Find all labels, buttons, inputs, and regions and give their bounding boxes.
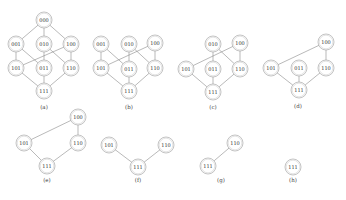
panel-f: 101110111(f) [101,137,174,183]
node-110: 110 [158,137,174,153]
node-label: 001 [11,41,21,47]
node-label: 110 [230,140,240,146]
node-label: 010 [208,41,218,47]
node-label: 100 [321,39,331,45]
panel-label-h: (h) [289,177,297,183]
node-100: 100 [318,34,334,50]
panel-a: 000001010100101011110111(a) [8,12,79,110]
lattice-diagram-svg: 000001010100101011110111(a)0010101001010… [0,0,346,200]
node-110: 110 [147,60,163,76]
node-011: 011 [36,60,52,76]
node-111: 111 [39,158,55,174]
node-label: 100 [150,40,160,46]
node-110: 110 [318,60,334,76]
node-101: 101 [93,60,109,76]
node-111: 111 [200,158,216,174]
node-110: 110 [63,60,79,76]
node-110: 110 [232,61,248,77]
node-010: 010 [36,36,52,52]
panel-b: 001010100101011110111(b) [93,35,163,110]
panel-c: 010100101011110111(c) [178,35,248,110]
node-label: 111 [203,163,213,169]
node-label: 011 [124,66,134,72]
node-label: 011 [208,66,218,72]
node-001: 001 [8,36,24,52]
panel-d: 100101011110111(d) [263,34,334,109]
node-010: 010 [121,36,137,52]
panel-label-f: (f) [135,177,141,183]
node-label: 110 [150,65,160,71]
node-label: 101 [181,66,191,72]
node-label: 111 [208,89,218,95]
node-label: 100 [66,41,76,47]
node-label: 101 [19,140,29,146]
panel-label-d: (d) [294,103,302,109]
node-111: 111 [130,159,146,175]
node-100: 100 [63,36,79,52]
node-label: 110 [321,65,331,71]
node-011: 011 [205,61,221,77]
node-110: 110 [70,135,86,151]
node-111: 111 [205,84,221,100]
node-000: 000 [36,12,52,28]
node-111: 111 [121,83,137,99]
node-label: 110 [66,65,76,71]
panel-e: 100101110111(e) [16,109,86,183]
panel-label-e: (e) [43,177,51,183]
node-label: 101 [11,65,21,71]
node-label: 100 [73,114,83,120]
node-label: 101 [96,65,106,71]
node-label: 111 [133,164,143,170]
node-label: 101 [266,65,276,71]
node-label: 111 [39,88,49,94]
edge-100-101 [24,117,78,143]
node-100: 100 [232,35,248,51]
node-label: 011 [294,65,304,71]
node-100: 100 [70,109,86,125]
panel-label-c: (c) [209,104,216,110]
node-001: 001 [93,36,109,52]
node-111: 111 [36,83,52,99]
node-111: 111 [291,82,307,98]
node-label: 101 [104,142,114,148]
node-100: 100 [147,35,163,51]
node-101: 101 [16,135,32,151]
node-label: 100 [235,40,245,46]
node-label: 011 [39,65,49,71]
node-111: 111 [285,159,301,175]
node-110: 110 [227,135,243,151]
panel-label-b: (b) [125,104,133,110]
panel-g: 110111(g) [200,135,243,184]
node-label: 111 [124,88,134,94]
node-label: 110 [161,142,171,148]
node-label: 000 [39,17,49,23]
node-101: 101 [178,61,194,77]
node-label: 110 [73,140,83,146]
node-101: 101 [8,60,24,76]
node-label: 111 [42,163,52,169]
lattice-figure: 000001010100101011110111(a)0010101001010… [0,0,346,200]
panel-h: 111(h) [285,159,301,183]
edges [16,20,71,91]
node-010: 010 [205,36,221,52]
node-label: 111 [288,164,298,170]
node-101: 101 [101,137,117,153]
node-label: 010 [124,41,134,47]
node-label: 111 [294,87,304,93]
node-label: 110 [235,66,245,72]
panel-label-a: (a) [40,104,48,110]
node-011: 011 [121,61,137,77]
node-101: 101 [263,60,279,76]
node-label: 010 [39,41,49,47]
node-label: 001 [96,41,106,47]
node-011: 011 [291,60,307,76]
panel-label-g: (g) [217,177,225,184]
